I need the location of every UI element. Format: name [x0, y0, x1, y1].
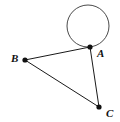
figure-canvas: A B C — [0, 0, 120, 122]
vertex-dot-b — [22, 57, 27, 62]
circle-shape — [67, 5, 109, 47]
vertex-label-c: C — [106, 107, 114, 119]
segment-b-c — [25, 60, 99, 107]
vertex-dot-a — [87, 44, 92, 49]
segment-b-a — [25, 47, 90, 60]
vertex-label-b: B — [10, 52, 18, 64]
vertex-dot-c — [96, 104, 101, 109]
vertex-label-a: A — [96, 47, 104, 59]
geometry-figure: A B C — [0, 0, 120, 122]
